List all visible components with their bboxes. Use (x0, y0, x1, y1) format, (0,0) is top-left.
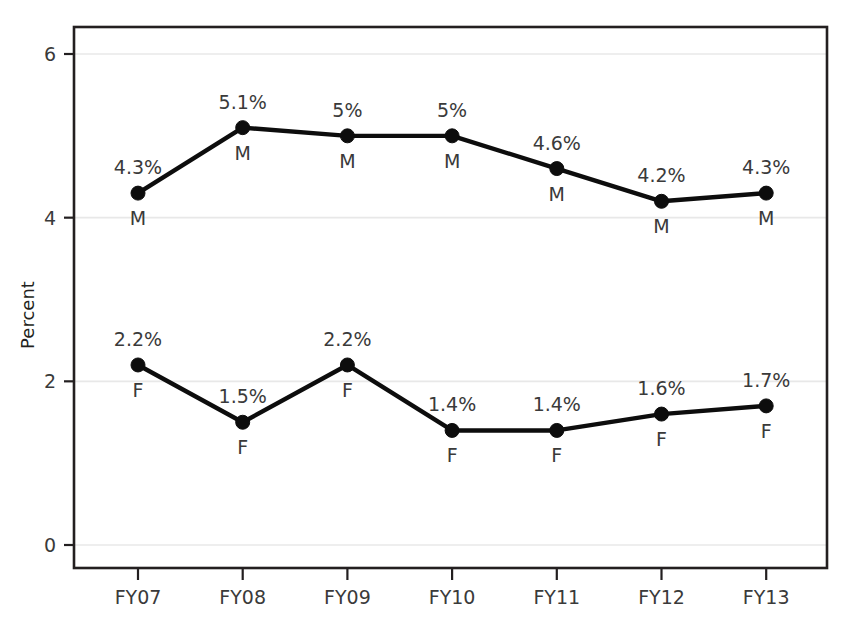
series-code-F-FY07: F (133, 379, 144, 401)
value-label-M-FY13: 4.3% (742, 156, 790, 178)
data-point-F-FY08 (236, 415, 250, 429)
series-code-M-FY11: M (549, 183, 565, 205)
series-code-F-FY08: F (237, 436, 248, 458)
x-tick-label-FY09: FY09 (324, 586, 371, 608)
series-code-F-FY10: F (447, 444, 458, 466)
data-point-F-FY09 (340, 358, 354, 372)
series-code-M-FY07: M (130, 207, 146, 229)
series-code-F-FY13: F (761, 420, 772, 442)
data-point-M-FY13 (759, 186, 773, 200)
y-tick-label-0: 0 (44, 534, 56, 556)
value-label-M-FY12: 4.2% (637, 164, 685, 186)
series-code-M-FY10: M (444, 150, 460, 172)
series-code-F-FY09: F (342, 379, 353, 401)
series-code-F-FY11: F (551, 444, 562, 466)
data-point-F-FY12 (655, 407, 669, 421)
y-axis-title: Percent (17, 281, 38, 349)
chart-container: 0246 FY07FY08FY09FY10FY11FY12FY13 4.3%M5… (0, 0, 846, 627)
x-tick-label-FY08: FY08 (219, 586, 266, 608)
series-code-M-FY08: M (234, 142, 250, 164)
data-point-F-FY13 (759, 399, 773, 413)
x-tick-label-FY13: FY13 (743, 586, 790, 608)
data-point-M-FY07 (131, 186, 145, 200)
data-point-M-FY08 (236, 121, 250, 135)
value-label-M-FY09: 5% (332, 99, 362, 121)
value-label-F-FY13: 1.7% (742, 369, 790, 391)
chart-background (0, 0, 846, 627)
value-label-M-FY08: 5.1% (219, 91, 267, 113)
x-tick-label-FY12: FY12 (638, 586, 685, 608)
series-code-M-FY09: M (339, 150, 355, 172)
line-chart: 0246 FY07FY08FY09FY10FY11FY12FY13 4.3%M5… (0, 0, 846, 627)
series-code-F-FY12: F (656, 428, 667, 450)
value-label-M-FY11: 4.6% (533, 132, 581, 154)
data-point-M-FY11 (550, 162, 564, 176)
value-label-F-FY07: 2.2% (114, 328, 162, 350)
y-tick-label-2: 2 (44, 370, 56, 392)
x-tick-label-FY07: FY07 (115, 586, 162, 608)
y-tick-label-6: 6 (44, 43, 56, 65)
data-point-F-FY10 (445, 423, 459, 437)
data-point-M-FY12 (655, 194, 669, 208)
value-label-F-FY12: 1.6% (637, 377, 685, 399)
x-tick-label-FY11: FY11 (533, 586, 580, 608)
data-point-M-FY09 (340, 129, 354, 143)
series-code-M-FY12: M (653, 215, 669, 237)
y-tick-label-4: 4 (44, 207, 56, 229)
value-label-F-FY09: 2.2% (323, 328, 371, 350)
data-point-F-FY11 (550, 423, 564, 437)
value-label-M-FY10: 5% (437, 99, 467, 121)
value-label-F-FY08: 1.5% (219, 385, 267, 407)
data-point-M-FY10 (445, 129, 459, 143)
value-label-F-FY11: 1.4% (533, 393, 581, 415)
series-code-M-FY13: M (758, 207, 774, 229)
data-point-F-FY07 (131, 358, 145, 372)
value-label-F-FY10: 1.4% (428, 393, 476, 415)
x-tick-label-FY10: FY10 (429, 586, 476, 608)
value-label-M-FY07: 4.3% (114, 156, 162, 178)
